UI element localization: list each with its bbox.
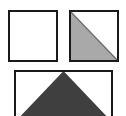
empty-square-icon <box>8 10 58 62</box>
shape-canvas <box>0 0 126 116</box>
tile-upward-peak-square[interactable] <box>14 70 113 116</box>
tile-empty-square[interactable] <box>8 10 58 62</box>
diagonal-half-square-icon <box>69 10 119 62</box>
upward-triangle-icon <box>14 70 113 116</box>
empty-square-fill <box>9 11 57 61</box>
tile-diagonal-half-square[interactable] <box>69 10 119 62</box>
